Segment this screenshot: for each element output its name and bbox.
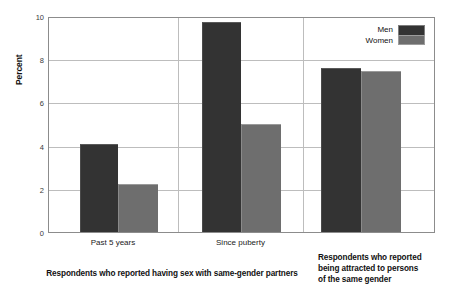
caption-sex-partners: Respondents who reported having sex with…	[22, 268, 322, 279]
bar-women-attraction	[361, 71, 401, 232]
plot-area: Men Women	[48, 17, 435, 233]
y-tick-8: 8	[22, 56, 44, 65]
caption-attraction-line3: of the same gender	[318, 274, 448, 285]
y-tick-10: 10	[22, 13, 44, 22]
gridline-8	[49, 60, 434, 61]
y-tick-2: 2	[22, 186, 44, 195]
legend-label-men: Men	[377, 25, 393, 36]
bar-men-attraction	[321, 68, 361, 232]
bar-women-past-5-years	[118, 184, 158, 232]
legend-swatch-women	[398, 35, 425, 45]
legend-swatch-men	[398, 25, 425, 35]
x-label-past-5-years: Past 5 years	[48, 238, 178, 247]
y-axis-title: Percent	[14, 25, 24, 85]
caption-attraction-line1: Respondents who reported	[318, 252, 448, 263]
y-axis-title-label: Percent	[14, 25, 24, 85]
bar-men-past-5-years	[80, 144, 118, 232]
group-separator-1	[178, 18, 179, 232]
caption-attraction: Respondents who reported being attracted…	[318, 252, 448, 285]
bar-chart: Percent 10 8 6 4 2 0 Men Women	[0, 0, 449, 297]
legend-label-women: Women	[366, 36, 393, 47]
caption-attraction-line2: being attracted to persons	[318, 263, 448, 274]
y-tick-0: 0	[22, 229, 44, 238]
y-tick-6: 6	[22, 99, 44, 108]
bar-men-since-puberty	[202, 22, 241, 232]
legend: Men Women	[363, 23, 428, 48]
bar-women-since-puberty	[241, 124, 281, 232]
x-label-since-puberty: Since puberty	[178, 238, 303, 247]
group-separator-2	[303, 18, 304, 232]
y-tick-4: 4	[22, 143, 44, 152]
